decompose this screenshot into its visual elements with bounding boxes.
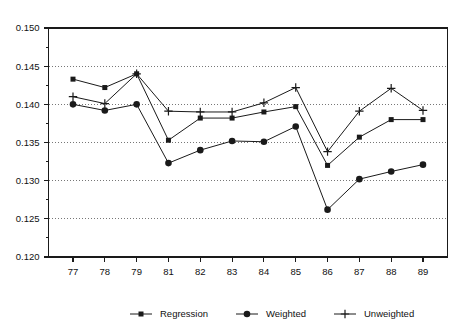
series-line: [73, 74, 423, 166]
marker-circle: [229, 138, 236, 145]
marker-square: [198, 116, 203, 121]
x-axis-tick-label: 77: [68, 266, 79, 277]
y-axis-tick-label: 0.135: [16, 137, 40, 148]
legend-item-unweighted[interactable]: Unweighted: [334, 308, 414, 319]
marker-circle: [244, 311, 251, 318]
chart-canvas: 0.1200.1250.1300.1350.1400.1450.15077787…: [0, 0, 475, 333]
marker-circle: [102, 107, 109, 114]
marker-circle: [261, 138, 268, 145]
marker-circle: [70, 101, 77, 108]
x-axis-tick-label: 78: [100, 266, 111, 277]
y-axis-tick-label: 0.125: [16, 213, 40, 224]
y-axis-tick-label: 0.145: [16, 61, 40, 72]
marker-square: [139, 312, 144, 317]
y-axis-tick-label: 0.140: [16, 99, 40, 110]
marker-circle: [388, 168, 395, 175]
series-weighted: [70, 101, 427, 213]
x-axis-tick-label: 81: [163, 266, 174, 277]
marker-square: [421, 117, 426, 122]
x-axis-tick-label: 83: [227, 266, 238, 277]
x-axis-tick-label: 85: [290, 266, 301, 277]
marker-plus: [196, 108, 204, 116]
marker-plus: [228, 108, 236, 116]
marker-plus: [341, 310, 349, 318]
marker-square: [166, 138, 171, 143]
y-axis: 0.1200.1250.1300.1350.1400.1450.150: [16, 22, 49, 262]
marker-plus: [260, 99, 268, 107]
y-axis-tick-label: 0.130: [16, 175, 40, 186]
x-axis-tick-label: 82: [195, 266, 206, 277]
marker-circle: [292, 123, 299, 130]
legend-label: Weighted: [266, 308, 306, 319]
marker-square: [293, 104, 298, 109]
grid-lines: [49, 66, 448, 219]
y-axis-tick-label: 0.120: [16, 251, 40, 262]
marker-circle: [356, 176, 363, 183]
marker-plus: [387, 84, 395, 92]
legend-item-regression[interactable]: Regression: [130, 308, 208, 319]
marker-square: [102, 85, 107, 90]
marker-square: [389, 117, 394, 122]
marker-circle: [197, 147, 204, 154]
series-group: [69, 70, 427, 213]
x-axis-tick-label: 89: [418, 266, 429, 277]
marker-plus: [419, 106, 427, 114]
series-line: [73, 74, 423, 152]
x-axis-tick-label: 79: [131, 266, 142, 277]
marker-plus: [292, 83, 300, 91]
marker-plus: [69, 93, 77, 101]
legend-item-weighted[interactable]: Weighted: [236, 308, 306, 319]
legend-label: Regression: [160, 308, 208, 319]
x-axis-tick-label: 84: [259, 266, 270, 277]
marker-square: [325, 163, 330, 168]
series-unweighted: [69, 70, 427, 156]
y-axis-tick-label: 0.150: [16, 22, 40, 33]
marker-circle: [165, 160, 172, 167]
marker-square: [357, 135, 362, 140]
marker-circle: [324, 206, 331, 213]
marker-square: [261, 109, 266, 114]
x-axis-tick-label: 86: [322, 266, 333, 277]
line-chart: 0.1200.1250.1300.1350.1400.1450.15077787…: [0, 0, 475, 333]
marker-circle: [133, 101, 140, 108]
x-axis-tick-label: 88: [386, 266, 397, 277]
marker-circle: [420, 161, 427, 168]
legend-label: Unweighted: [364, 308, 414, 319]
x-axis-tick-label: 87: [354, 266, 365, 277]
x-axis: 777879818283848586878889: [68, 257, 429, 277]
marker-square: [230, 116, 235, 121]
legend: RegressionWeightedUnweighted: [130, 308, 414, 319]
series-line: [73, 104, 423, 209]
marker-square: [71, 77, 76, 82]
